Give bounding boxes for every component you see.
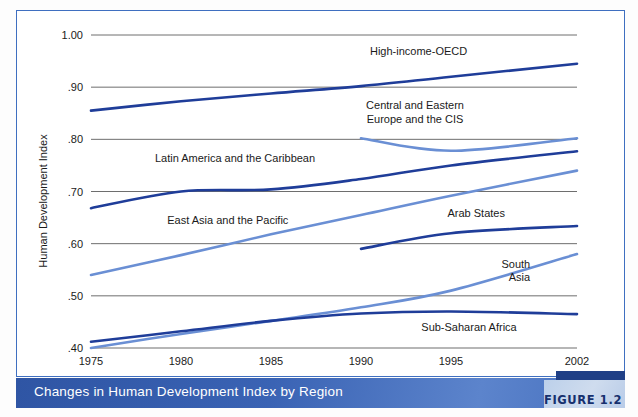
series-label-1: Central and Eastern [366, 99, 464, 111]
y-tick-label: .70 [68, 186, 83, 198]
x-tick-label: 1985 [259, 355, 283, 367]
y-tick-label: 1.00 [62, 29, 83, 41]
series-line-1 [361, 138, 577, 151]
series-label-5: Asia [509, 271, 531, 283]
badge-body: FIGURE 1.2 [544, 380, 625, 408]
y-axis-tick-labels: .40.50.60.70.80.901.00 [62, 29, 83, 354]
x-tick-label: 1990 [349, 355, 373, 367]
x-tick-label: 1980 [169, 355, 193, 367]
y-axis-title: Human Development Index [37, 134, 49, 268]
y-tick-label: .90 [68, 81, 83, 93]
x-tick-label: 2002 [565, 355, 589, 367]
series-lines-group [91, 64, 577, 348]
chart-card: .40.50.60.70.80.901.00 19751980198519901… [16, 10, 625, 377]
y-tick-label: .40 [68, 342, 83, 354]
series-label-5: South [501, 258, 530, 270]
series-label-3: East Asia and the Pacific [167, 214, 289, 226]
figure-number-badge: FIGURE 1.2 [544, 371, 625, 408]
series-label-0: High-income-OECD [370, 45, 467, 57]
caption-bar: Changes in Human Development Index by Re… [16, 378, 625, 408]
figure-caption: Changes in Human Development Index by Re… [34, 384, 343, 399]
x-tick-label: 1975 [79, 355, 103, 367]
series-label-4: Arab States [447, 207, 505, 219]
gridlines-group [91, 35, 577, 348]
badge-accent-bar [556, 371, 625, 380]
series-label-6: Sub-Saharan Africa [421, 321, 517, 333]
x-tick-label: 1995 [439, 355, 463, 367]
x-axis-tick-labels: 197519801985199019952002 [79, 355, 589, 367]
figure-number-label: FIGURE 1.2 [544, 393, 622, 407]
figure-container: .40.50.60.70.80.901.00 19751980198519901… [0, 0, 638, 417]
series-label-1: Europe and the CIS [367, 113, 464, 125]
hdi-line-chart: .40.50.60.70.80.901.00 19751980198519901… [17, 11, 623, 375]
series-label-2: Latin America and the Caribbean [155, 152, 315, 164]
y-tick-label: .60 [68, 238, 83, 250]
series-line-4 [361, 226, 577, 249]
y-tick-label: .50 [68, 290, 83, 302]
y-tick-label: .80 [68, 133, 83, 145]
